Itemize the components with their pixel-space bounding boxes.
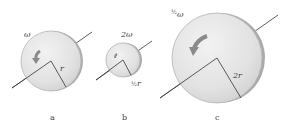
omega-label: 2ω: [120, 30, 133, 39]
panel-caption: c: [215, 113, 220, 122]
panel-caption: a: [50, 113, 55, 122]
radius-label: r: [137, 79, 142, 88]
rotating-disks-diagram: ω r a 2ω ½ r b ½ ω 2r: [0, 0, 284, 126]
disk-panel-b: 2ω ½ r b: [96, 30, 152, 122]
panel-caption: b: [122, 113, 127, 122]
diagram-canvas: ω r a 2ω ½ r b ½ ω 2r: [0, 0, 284, 126]
disk-panel-a: ω r a: [12, 30, 92, 122]
disk-panel-c: ½ ω 2r c: [160, 8, 278, 122]
radius-label: 2r: [232, 71, 243, 80]
omega-label: ω: [177, 10, 184, 19]
omega-label: ω: [24, 30, 31, 39]
